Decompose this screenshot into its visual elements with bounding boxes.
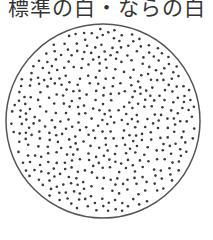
dot xyxy=(150,131,153,134)
dot xyxy=(107,31,110,34)
dot xyxy=(131,118,134,121)
dot xyxy=(22,161,25,164)
dot xyxy=(30,78,33,81)
dot xyxy=(61,133,64,136)
dot xyxy=(141,166,144,169)
dot xyxy=(180,154,183,157)
dot xyxy=(112,85,115,88)
dot xyxy=(125,113,128,116)
dot xyxy=(65,127,68,130)
dot xyxy=(162,143,165,146)
dot xyxy=(120,162,123,165)
dot xyxy=(115,57,118,60)
dot xyxy=(126,179,129,182)
dot xyxy=(78,97,81,100)
dot xyxy=(72,90,75,93)
dot xyxy=(141,63,144,66)
dot xyxy=(46,85,49,88)
dot xyxy=(66,153,69,156)
dot xyxy=(167,127,170,130)
dot xyxy=(78,89,81,92)
dot xyxy=(48,139,51,142)
dot xyxy=(109,178,112,181)
dot xyxy=(76,50,79,53)
dot xyxy=(67,118,70,121)
dot xyxy=(95,156,98,159)
dot xyxy=(101,187,104,190)
dot xyxy=(89,82,92,85)
dot xyxy=(123,129,126,132)
dot xyxy=(109,130,112,133)
dot xyxy=(65,191,68,194)
dot xyxy=(17,151,20,154)
dot xyxy=(90,52,93,55)
dot xyxy=(130,59,133,62)
dot xyxy=(121,202,124,205)
dot xyxy=(137,120,140,123)
dot xyxy=(180,136,183,139)
dot xyxy=(28,126,31,129)
dot xyxy=(188,89,191,92)
dot xyxy=(143,153,146,156)
dot xyxy=(70,182,73,185)
dot xyxy=(105,143,108,146)
dot xyxy=(157,59,160,62)
dot xyxy=(71,126,74,129)
dot xyxy=(166,117,169,120)
dot xyxy=(98,62,101,65)
dot xyxy=(124,144,127,147)
dot xyxy=(92,129,95,132)
dot xyxy=(131,107,134,110)
dot xyxy=(118,171,121,174)
dot xyxy=(76,148,79,151)
dot xyxy=(11,110,14,113)
dot xyxy=(164,89,167,92)
dot xyxy=(145,181,148,184)
dot xyxy=(193,106,196,109)
dot xyxy=(32,122,35,125)
dot xyxy=(77,170,80,173)
dot xyxy=(107,210,110,213)
dot xyxy=(127,205,130,208)
dot xyxy=(79,158,82,161)
dot xyxy=(60,54,63,57)
dot xyxy=(136,114,139,117)
dot xyxy=(21,78,24,81)
dot xyxy=(68,176,71,179)
dot xyxy=(57,141,60,144)
dot xyxy=(48,132,51,135)
dot xyxy=(18,141,21,144)
dot xyxy=(38,130,41,133)
dot xyxy=(44,125,47,128)
dot xyxy=(111,189,114,192)
dot xyxy=(171,90,174,93)
dot xyxy=(113,29,116,32)
dot xyxy=(101,130,104,133)
dot xyxy=(89,145,92,148)
dot xyxy=(154,113,157,116)
dot xyxy=(144,189,147,192)
dot xyxy=(131,33,134,36)
dot xyxy=(70,166,73,169)
dot xyxy=(148,44,151,47)
dot xyxy=(50,78,53,81)
dot xyxy=(29,84,32,87)
dot xyxy=(169,173,172,176)
dot xyxy=(13,104,16,107)
dot xyxy=(153,99,156,102)
dot xyxy=(174,142,177,145)
dot xyxy=(55,151,58,154)
dot xyxy=(40,170,43,173)
dot xyxy=(63,102,66,105)
dot xyxy=(87,63,90,66)
dot xyxy=(128,101,131,104)
dot xyxy=(163,99,166,102)
dot xyxy=(173,131,176,134)
dot xyxy=(150,138,153,141)
dot xyxy=(68,138,71,141)
dot xyxy=(108,202,111,205)
dot xyxy=(157,47,160,50)
dot xyxy=(155,69,158,72)
dot xyxy=(53,175,56,178)
dot xyxy=(48,194,51,197)
